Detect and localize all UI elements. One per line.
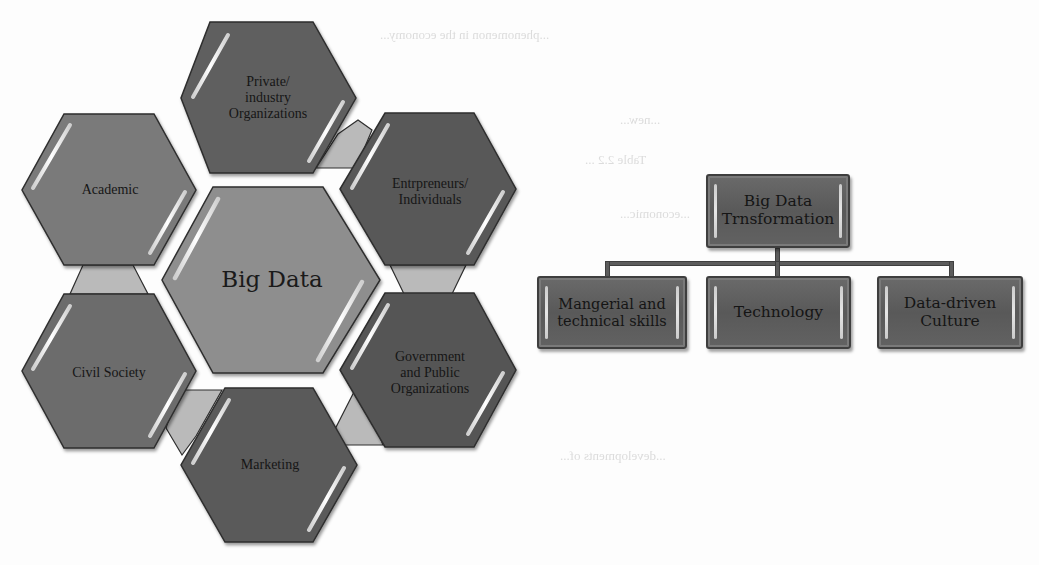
connector-academic-civil — [70, 265, 148, 294]
org-child-culture: Data-driven Culture — [877, 276, 1023, 349]
hex-label-government: Government and Public Organizations — [360, 342, 500, 404]
hex-label-marketing: Marketing — [200, 453, 340, 477]
hex-label-civil: Civil Society — [36, 361, 182, 385]
hex-label-center: Big Data — [182, 262, 362, 298]
hex-label-private: Private/ industry Organizations — [200, 62, 336, 134]
org-child-skills: Mangerial and technical skills — [537, 276, 687, 349]
org-child-technology: Technology — [706, 276, 851, 349]
hex-label-entrepreneurs: Entrpreneurs/ Individuals — [360, 170, 500, 214]
hex-label-academic: Academic — [40, 178, 180, 202]
org-root-box: Big Data Trnsformation — [706, 174, 850, 248]
connector-entrepreneurs-government — [390, 265, 466, 294]
